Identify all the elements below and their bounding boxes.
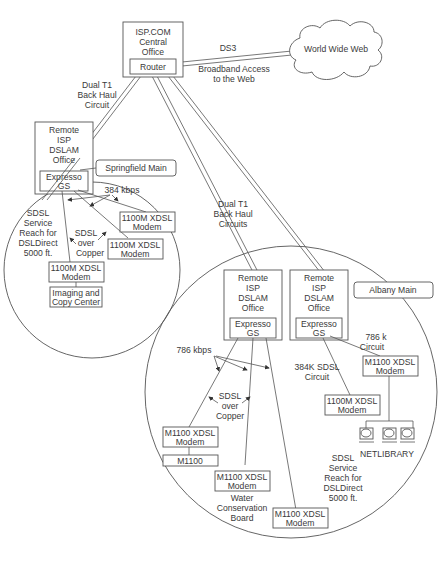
albany-dslam-office-1[interactable]: Remote ISP DSLAM Office Expresso GS [224,270,282,340]
svg-text:Circuit: Circuit [305,372,330,382]
svg-text:5000 ft.: 5000 ft. [329,493,358,503]
albany-main-label: Albany Main [354,282,433,298]
netlibrary-computers[interactable] [359,428,415,442]
svg-text:Reach for: Reach for [324,473,361,483]
svg-text:Board: Board [231,513,254,523]
albany-modem-m3[interactable]: M1100 XDSL Modem [273,508,328,528]
network-diagram: ISP.COM Central Office Router World Wide… [0,0,447,564]
svg-text:ISP: ISP [246,283,260,293]
svg-text:Back Haul: Back Haul [77,90,116,100]
springfield-backhaul-label: Dual T1 [82,80,112,90]
springfield-modem-2[interactable]: 1100M XDSL Modem [108,239,163,259]
albany-reach-label: SDSL [332,453,355,463]
svg-text:Office: Office [308,303,331,313]
svg-text:World Wide Web: World Wide Web [304,44,368,54]
svg-text:GS: GS [58,181,71,191]
svg-text:Office: Office [242,303,265,313]
svg-text:Service: Service [24,218,53,228]
springfield-dslam-office[interactable]: Remote ISP DSLAM Office Expresso GS [35,122,93,194]
albany-modem-m2[interactable]: M1100 XDSL Modem [215,471,270,491]
springfield-modem-3[interactable]: 1100M XDSL Modem [49,262,104,282]
svg-text:Copper: Copper [216,411,244,421]
broadband-caption: Broadband Access [198,64,270,74]
svg-text:Modem: Modem [376,366,405,376]
svg-text:DSLAM: DSLAM [238,293,268,303]
computer-icon [359,428,374,442]
backhaul-albany-2 [168,76,325,272]
svg-text:ISP: ISP [312,283,326,293]
albany-modem-m4[interactable]: 1100M XDSL Modem [325,395,380,415]
albany-dslam-office-2[interactable]: Remote ISP DSLAM Office Expresso GS [290,270,348,340]
svg-text:Modem: Modem [121,249,150,259]
svg-text:Remote: Remote [238,273,268,283]
svg-text:Modem: Modem [176,437,205,447]
svg-text:Circuit: Circuit [85,100,110,110]
svg-text:Reach for: Reach for [19,228,56,238]
svg-text:DSLAM: DSLAM [304,293,334,303]
svg-text:Modem: Modem [338,405,367,415]
svg-text:GS: GS [247,328,260,338]
svg-text:Springfield Main: Springfield Main [105,163,167,173]
svg-text:GS: GS [313,328,326,338]
imaging-copy-center[interactable]: Imaging and Copy Center [50,287,102,307]
ds3-label: DS3 [220,43,237,53]
computer-icon [382,428,397,442]
svg-text:ISP: ISP [57,135,71,145]
svg-text:Albany Main: Albany Main [369,285,417,295]
springfield-speed-label: 384 kbps [105,185,140,195]
springfield-modem-1[interactable]: 1100M XDSL Modem [120,212,175,232]
svg-text:Copy Center: Copy Center [52,297,100,307]
svg-text:Modem: Modem [286,518,315,528]
router-label: Router [140,62,166,72]
svg-text:Office: Office [142,47,165,57]
svg-text:DSLDirect: DSLDirect [18,238,58,248]
svg-text:DSLDirect: DSLDirect [323,483,363,493]
svg-text:Modem: Modem [62,272,91,282]
svg-text:Central: Central [139,37,167,47]
netlibrary-label: NETLIBRARY [360,449,414,459]
albany-modem-m1[interactable]: M1100 XDSL Modem [163,427,218,447]
svg-text:Service: Service [329,463,358,473]
circuit-786-label: 786 k [365,332,387,342]
svg-text:Remote: Remote [304,273,334,283]
svg-text:5000 ft.: 5000 ft. [24,248,53,258]
central-office-title: ISP.COM [135,27,170,37]
svg-text:Back Haul: Back Haul [213,209,252,219]
albany-m1100-device[interactable]: M1100 [163,455,218,466]
svg-text:Modem: Modem [133,222,162,232]
albany-medium-label: SDSL [219,391,242,401]
svg-text:Conservation: Conservation [217,503,268,513]
svg-text:Office: Office [53,155,76,165]
svg-text:over: over [222,401,239,411]
svg-text:Circuit: Circuit [360,342,385,352]
circuit-384-label: 384K SDSL [295,362,340,372]
svg-text:Remote: Remote [49,125,79,135]
svg-text:M1100: M1100 [177,456,203,466]
albany-modem-m5[interactable]: M1100 XDSL Modem [363,356,418,376]
svg-text:DSLAM: DSLAM [49,145,79,155]
svg-text:Copper: Copper [76,248,104,258]
computer-icon [400,428,415,442]
albany-speed-label: 786 kbps [177,345,212,355]
springfield-main-label: Springfield Main [96,160,176,176]
central-office[interactable]: ISP.COM Central Office Router [123,22,183,77]
springfield-medium-label: SDSL [75,228,98,238]
svg-text:over: over [78,238,95,248]
albany-backhaul-label: Dual T1 [218,199,248,209]
svg-text:Circuits: Circuits [219,219,248,229]
world-wide-web-cloud[interactable]: World Wide Web [290,20,382,79]
svg-text:to the Web: to the Web [213,74,255,84]
springfield-reach-label: SDSL [27,208,50,218]
svg-text:Modem: Modem [228,481,257,491]
water-conservation-board-label: Water [231,493,254,503]
